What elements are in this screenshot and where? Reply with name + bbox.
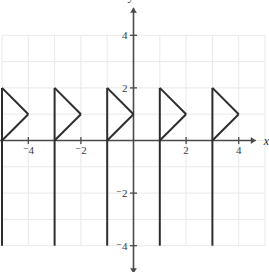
y-tick-label: 4 (122, 29, 128, 41)
curve-segment-upper-diagonal (160, 88, 186, 114)
x-tick-label: ⁻4 (23, 144, 35, 156)
axes (0, 8, 256, 272)
x-axis-label: x (263, 134, 269, 148)
coordinate-plane-svg: ⁻4⁻22442⁻2⁻4 x y (0, 0, 269, 272)
y-tick-label: ⁻2 (116, 187, 128, 199)
curve-segment-upper-diagonal (55, 88, 81, 114)
curve-segment-lower-diagonal (212, 114, 238, 140)
x-tick-label: ⁻2 (75, 144, 87, 156)
curve-segment-upper-diagonal (212, 88, 238, 114)
curve-segment-lower-diagonal (55, 114, 81, 140)
graph-figure: ⁻4⁻22442⁻2⁻4 x y (0, 0, 269, 272)
curve-segment-upper-diagonal (107, 88, 133, 114)
curve-segment-upper-diagonal (2, 88, 28, 114)
x-tick-label: 4 (236, 144, 242, 156)
y-axis-label: y (128, 0, 135, 3)
y-tick-label: 2 (122, 82, 128, 94)
curve-segment-lower-diagonal (160, 114, 186, 140)
y-tick-label: ⁻4 (116, 240, 128, 252)
curve-segment-lower-diagonal (107, 114, 133, 140)
curve-segment-lower-diagonal (2, 114, 28, 140)
x-tick-label: 2 (183, 144, 189, 156)
